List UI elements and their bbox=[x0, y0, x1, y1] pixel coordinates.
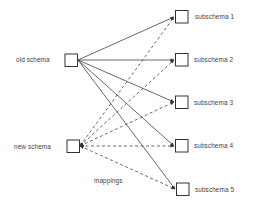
subschema-3-box bbox=[176, 96, 189, 109]
mappings-label: mappings bbox=[94, 177, 123, 185]
edge-old-to-subschema-1 bbox=[78, 17, 174, 60]
subschema-3-label: subschema 3 bbox=[194, 99, 233, 107]
old-schema-box bbox=[65, 54, 78, 67]
subschema-4-label: subschema 4 bbox=[194, 142, 233, 150]
subschema-2-label: subschema 2 bbox=[194, 56, 233, 64]
subschema-4-box bbox=[176, 140, 189, 153]
schema-mapping-diagram: old schema new schema mappings subschema… bbox=[0, 0, 253, 210]
dashed-edges bbox=[80, 17, 175, 189]
subschema-1-label: subschema 1 bbox=[195, 13, 234, 21]
new-schema-label: new schema bbox=[14, 143, 51, 151]
edge-old-to-subschema-3 bbox=[78, 60, 174, 102]
subschema-2-box bbox=[176, 54, 189, 67]
subschema-5-box bbox=[177, 183, 190, 196]
subschema-1-box bbox=[176, 11, 189, 24]
old-schema-label: old schema bbox=[16, 56, 50, 64]
edge-old-to-subschema-4 bbox=[78, 60, 174, 146]
new-schema-box bbox=[67, 140, 80, 153]
subschema-5-label: subschema 5 bbox=[195, 186, 234, 194]
edge-subschema-3-to-new bbox=[80, 102, 174, 146]
